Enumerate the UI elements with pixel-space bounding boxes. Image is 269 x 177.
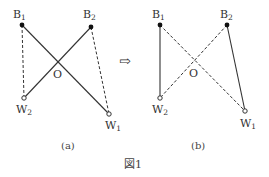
label-w1: W1 bbox=[240, 117, 256, 131]
label-o: O bbox=[189, 67, 198, 80]
label-b1: B1 bbox=[152, 8, 165, 22]
point-b2-filled-icon bbox=[89, 25, 94, 30]
panel-a: B1 B2 O W2 W1 (a) bbox=[13, 8, 121, 151]
panel-b: B1 B2 O W2 W1 (b) bbox=[152, 8, 256, 151]
point-w1-open-icon bbox=[243, 109, 247, 113]
point-w2-open-icon bbox=[158, 96, 162, 100]
label-w1: W1 bbox=[105, 119, 121, 133]
point-b2-filled-icon bbox=[225, 23, 230, 28]
label-b2: B2 bbox=[220, 8, 233, 22]
point-w1-open-icon bbox=[107, 112, 111, 116]
edge-b1-w1-solid bbox=[22, 25, 109, 114]
edge-b2-w1-solid bbox=[227, 25, 245, 111]
panel-b-label: (b) bbox=[191, 140, 205, 151]
panel-a-label: (a) bbox=[61, 140, 75, 151]
label-b1: B1 bbox=[13, 8, 26, 22]
label-w2: W2 bbox=[152, 103, 168, 117]
edge-b2-w1-dashed bbox=[91, 27, 109, 114]
transform-arrow-icon: ⇨ bbox=[119, 53, 131, 69]
edge-b2-w2-dashed bbox=[160, 25, 227, 98]
figure-canvas: B1 B2 O W2 W1 (a) ⇨ B1 B2 O W2 W1 (b) 図1 bbox=[0, 0, 269, 177]
label-o: O bbox=[53, 68, 62, 81]
edge-b1-w1-dashed bbox=[160, 25, 245, 111]
point-b1-filled-icon bbox=[158, 23, 163, 28]
label-w2: W2 bbox=[16, 103, 32, 117]
point-b1-filled-icon bbox=[20, 23, 25, 28]
edge-b1-w2-dashed bbox=[22, 25, 24, 98]
figure-caption: 図1 bbox=[124, 158, 142, 171]
label-b2: B2 bbox=[83, 8, 96, 22]
point-w2-open-icon bbox=[22, 96, 26, 100]
